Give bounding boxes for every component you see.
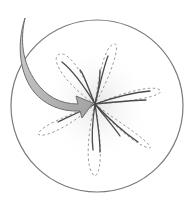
figure-canvas	[0, 0, 194, 210]
rosette-diagram	[0, 0, 194, 210]
